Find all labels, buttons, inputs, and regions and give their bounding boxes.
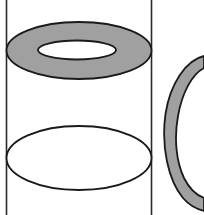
geometry-diagram	[0, 0, 204, 215]
figure-canvas	[0, 0, 204, 215]
bottom-ellipse-outline	[7, 126, 152, 190]
